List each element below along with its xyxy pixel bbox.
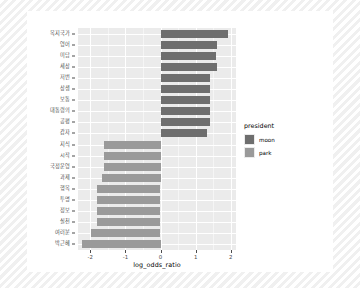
y-axis-tick — [72, 55, 75, 56]
legend-key — [244, 134, 255, 145]
legend-item[interactable]: moon — [244, 134, 306, 145]
bar — [161, 85, 210, 93]
y-axis-tick — [72, 44, 75, 45]
gridline-minor-vertical — [213, 28, 214, 250]
y-axis-tick-label: 미담 — [60, 53, 70, 58]
x-axis-tick — [161, 250, 162, 253]
gridline-horizontal — [78, 122, 236, 123]
gridline-horizontal — [78, 133, 236, 134]
y-axis-tick-label: 상생 — [60, 86, 70, 91]
y-axis-tick — [72, 244, 75, 245]
y-axis-tick-label: 실천 — [60, 220, 70, 225]
gridline-minor-vertical — [108, 28, 109, 250]
y-axis-tick — [72, 144, 75, 145]
gridline-horizontal — [78, 89, 236, 90]
bar — [161, 129, 208, 137]
y-axis-tick-label: 행복 — [60, 186, 70, 191]
y-axis-tick-label: 국정운영 — [50, 164, 70, 169]
bar — [97, 196, 161, 204]
bar — [161, 30, 228, 38]
y-axis-tick — [72, 188, 75, 189]
gridline-major-vertical — [161, 28, 162, 250]
y-axis-tick-label: 공평 — [60, 120, 70, 125]
legend-key — [244, 147, 255, 158]
y-axis-tick — [72, 133, 75, 134]
y-axis-tick-label: 대통령의 — [50, 109, 70, 114]
legend-swatch — [245, 148, 254, 157]
y-axis-tick-label: 과제 — [60, 175, 70, 180]
bar — [97, 207, 161, 215]
gridline-major-vertical — [125, 28, 126, 250]
gridline-horizontal — [78, 100, 236, 101]
gridline-minor-vertical — [178, 28, 179, 250]
x-axis-tick — [231, 250, 232, 253]
y-axis-tick — [72, 66, 75, 67]
y-axis-tick — [72, 155, 75, 156]
y-axis-tick-label: 정보 — [60, 209, 70, 214]
bar — [91, 229, 161, 237]
y-axis-tick-label: 보통 — [60, 98, 70, 103]
y-axis: 복지국가영어미담세상저번상생보통대통령의공평갑자지식시작국정운영과제행복투명정보… — [27, 28, 76, 250]
y-axis-tick — [72, 211, 75, 212]
y-axis-tick — [72, 89, 75, 90]
x-axis-tick — [90, 250, 91, 253]
y-axis-tick-label: 투명 — [60, 197, 70, 202]
bar — [104, 141, 161, 149]
bar — [161, 52, 216, 60]
legend-label: moon — [259, 137, 275, 143]
x-axis-tick — [196, 250, 197, 253]
y-axis-tick — [72, 100, 75, 101]
legend-swatch — [245, 135, 254, 144]
x-axis-tick-label: 0 — [159, 255, 162, 260]
gridline-major-vertical — [196, 28, 197, 250]
y-axis-tick-label: 지식 — [60, 142, 70, 147]
y-axis-tick — [72, 77, 75, 78]
gridline-major-vertical — [231, 28, 232, 250]
chart-card: 복지국가영어미담세상저번상생보통대통령의공평갑자지식시작국정운영과제행복투명정보… — [27, 11, 333, 272]
y-axis-tick — [72, 222, 75, 223]
bar — [102, 174, 160, 182]
x-axis-tick-label: -1 — [123, 255, 128, 260]
gridline-major-vertical — [90, 28, 91, 250]
y-axis-tick-label: 세상 — [60, 64, 70, 69]
y-axis-tick — [72, 200, 75, 201]
x-axis-tick-label: 2 — [229, 255, 232, 260]
bar — [161, 74, 210, 82]
x-axis-tick-label: 1 — [194, 255, 197, 260]
bar — [161, 118, 210, 126]
bar — [104, 152, 161, 160]
y-axis-tick-label: 여러분 — [55, 231, 70, 236]
bar — [161, 107, 210, 115]
gridline-horizontal — [78, 78, 236, 79]
bar — [97, 218, 161, 226]
legend-item[interactable]: park — [244, 147, 306, 158]
y-axis-tick — [72, 122, 75, 123]
bar — [161, 96, 210, 104]
gridline-horizontal — [78, 111, 236, 112]
y-axis-tick — [72, 111, 75, 112]
legend-items: moonpark — [244, 134, 306, 158]
y-axis-tick-label: 갑자 — [60, 131, 70, 136]
plot-panel — [78, 28, 236, 250]
legend-title: president — [244, 122, 306, 130]
legend-label: park — [259, 150, 272, 156]
x-axis-tick-label: -2 — [88, 255, 93, 260]
y-axis-tick-label: 복지국가 — [50, 31, 70, 36]
bar — [97, 185, 161, 193]
y-axis-tick-label: 시작 — [60, 153, 70, 158]
y-axis-tick-label: 저번 — [60, 75, 70, 80]
bar — [82, 240, 161, 248]
x-axis-tick — [125, 250, 126, 253]
y-axis-tick-label: 영어 — [60, 42, 70, 47]
legend: president moonpark — [244, 122, 306, 160]
bar — [161, 41, 217, 49]
y-axis-tick — [72, 33, 75, 34]
bar — [104, 163, 161, 171]
x-axis-title: log_odds_ratio — [78, 261, 236, 269]
y-axis-tick-label: 박근혜 — [55, 242, 70, 247]
bar — [161, 63, 218, 71]
y-axis-tick — [72, 166, 75, 167]
y-axis-tick — [72, 233, 75, 234]
gridline-minor-vertical — [143, 28, 144, 250]
y-axis-tick — [72, 177, 75, 178]
